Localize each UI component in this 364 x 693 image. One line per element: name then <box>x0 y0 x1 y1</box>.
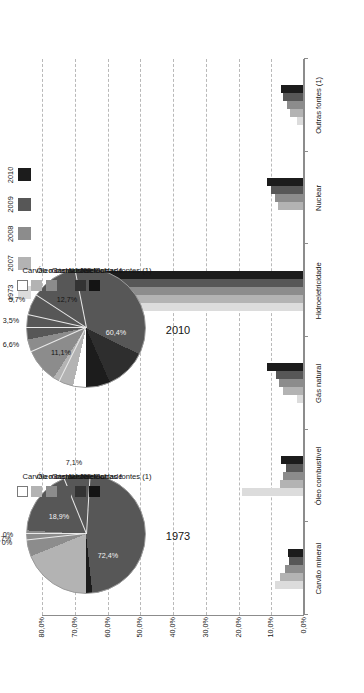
bar[interactable] <box>275 581 303 589</box>
bar[interactable] <box>280 573 303 581</box>
x-axis-tick <box>304 243 308 244</box>
pie-slice-label: 72,4% <box>97 550 117 559</box>
x-axis-tick <box>304 614 308 615</box>
source-legend-swatch <box>60 280 71 291</box>
source-legend-label: Outras fontes (1) <box>95 472 152 481</box>
category-label: Gás natural <box>314 364 323 403</box>
pie-slice-label: 18,9% <box>48 511 68 520</box>
bar[interactable] <box>271 186 303 194</box>
y-axis-tick-label: 30,0% <box>201 617 210 641</box>
pie-year-title: 1973 <box>166 530 190 542</box>
bar[interactable] <box>283 93 303 101</box>
bar[interactable] <box>278 202 303 210</box>
year-legend-item[interactable]: 2010 <box>6 167 31 183</box>
grid-line <box>271 59 272 615</box>
bar[interactable] <box>285 565 303 573</box>
bar[interactable] <box>281 85 303 93</box>
source-legend-item[interactable]: Carvão mineral <box>16 421 28 497</box>
x-axis-tick <box>304 151 308 152</box>
category-label: Nuclear <box>314 185 323 211</box>
pie-slice-label: 3,5% <box>3 315 19 324</box>
grid-line <box>206 59 207 615</box>
source-legend-swatch <box>46 280 57 291</box>
source-legend-swatch <box>31 486 42 497</box>
year-legend-item[interactable]: 2009 <box>6 196 31 212</box>
source-legend-item[interactable]: Óleo combustível <box>31 421 43 497</box>
source-legend-swatch <box>60 486 71 497</box>
source-legend-item[interactable]: Outras fontes (1) <box>89 421 101 497</box>
pie-slice-label: 12,7% <box>56 295 76 304</box>
source-legend-2010: Carvão mineralÓleo combustívelGás natura… <box>16 215 101 291</box>
source-legend-item[interactable]: Óleo combustível <box>31 215 43 291</box>
x-axis-tick <box>304 429 308 430</box>
x-axis-tick <box>304 58 308 59</box>
source-legend-item[interactable]: Hidroeletricidade <box>60 215 72 291</box>
source-legend-item[interactable]: Carvão mineral <box>16 215 28 291</box>
year-legend-label: 2010 <box>6 167 15 183</box>
bar[interactable] <box>290 109 303 117</box>
year-legend-label: 2009 <box>6 196 15 212</box>
category-label: Outras fontes (1) <box>314 77 323 134</box>
bar[interactable] <box>289 557 303 565</box>
chart-canvas: 19732007200820092010 0,0%10,0%20,0%30,0%… <box>0 0 364 693</box>
pie-slice-label: 60,4% <box>106 327 126 336</box>
source-legend-item[interactable]: Gás natural <box>45 421 57 497</box>
bar[interactable] <box>283 387 303 395</box>
bar[interactable] <box>279 379 303 387</box>
y-axis-tick-label: 70,0% <box>70 617 79 641</box>
bar-group <box>267 178 303 218</box>
bar[interactable] <box>283 472 303 480</box>
pie-slice-label: 5,7% <box>9 295 25 304</box>
source-legend-swatch <box>75 280 86 291</box>
year-legend-swatch <box>18 168 31 181</box>
source-legend-item[interactable]: Outras fontes (1) <box>89 215 101 291</box>
y-axis-tick-label: 20,0% <box>234 617 243 641</box>
source-legend-swatch <box>46 486 57 497</box>
bar-group <box>275 549 303 589</box>
pie-slice-label: 11,1% <box>51 348 71 357</box>
source-legend-1973: Carvão mineralÓleo combustívelGás natura… <box>16 421 101 497</box>
source-legend-item[interactable]: Nuclear <box>74 421 86 497</box>
grid-line <box>239 59 240 615</box>
y-axis-tick-label: 80,0% <box>37 617 46 641</box>
bar[interactable] <box>281 456 303 464</box>
bar[interactable] <box>280 480 303 488</box>
x-axis-tick <box>304 336 308 337</box>
y-axis-tick-label: 50,0% <box>135 617 144 641</box>
source-legend-item[interactable]: Gás natural <box>45 215 57 291</box>
category-label: Óleo combustível <box>314 447 323 506</box>
pie-slice-label: 1,7% <box>0 534 12 543</box>
bar-group <box>242 456 303 496</box>
bar[interactable] <box>242 488 303 496</box>
source-legend-item[interactable]: Hidroeletricidade <box>60 421 72 497</box>
source-legend-swatch <box>31 280 42 291</box>
pie-slice-label: 6,6% <box>3 339 19 348</box>
bar[interactable] <box>276 371 304 379</box>
y-axis-tick-label: 40,0% <box>168 617 177 641</box>
pie-year-title: 2010 <box>166 324 190 336</box>
bar[interactable] <box>288 549 303 557</box>
y-axis-tick-label: 10,0% <box>266 617 275 641</box>
bar-group <box>281 85 303 125</box>
year-legend-label: 2008 <box>6 226 15 242</box>
x-axis-tick <box>304 521 308 522</box>
source-legend-swatch <box>89 486 100 497</box>
bar[interactable] <box>267 363 303 371</box>
source-legend-item[interactable]: Nuclear <box>74 215 86 291</box>
pie-slice-divider <box>26 327 86 328</box>
category-label: Carvão mineral <box>314 543 323 595</box>
source-legend-swatch <box>17 486 28 497</box>
category-label: Hidroeletricidade <box>314 262 323 319</box>
y-axis-tick-label: 60,0% <box>103 617 112 641</box>
source-legend-swatch <box>75 486 86 497</box>
bar[interactable] <box>275 194 303 202</box>
year-legend-swatch <box>18 198 31 211</box>
bar[interactable] <box>287 101 303 109</box>
bar[interactable] <box>267 178 303 186</box>
source-legend-label: Outras fontes (1) <box>95 266 152 275</box>
grid-line <box>304 59 305 615</box>
source-legend-swatch <box>17 280 28 291</box>
bar[interactable] <box>286 464 303 472</box>
chart-page: 19732007200820092010 0,0%10,0%20,0%30,0%… <box>0 0 364 693</box>
y-axis-tick-label: 0,0% <box>299 617 308 641</box>
